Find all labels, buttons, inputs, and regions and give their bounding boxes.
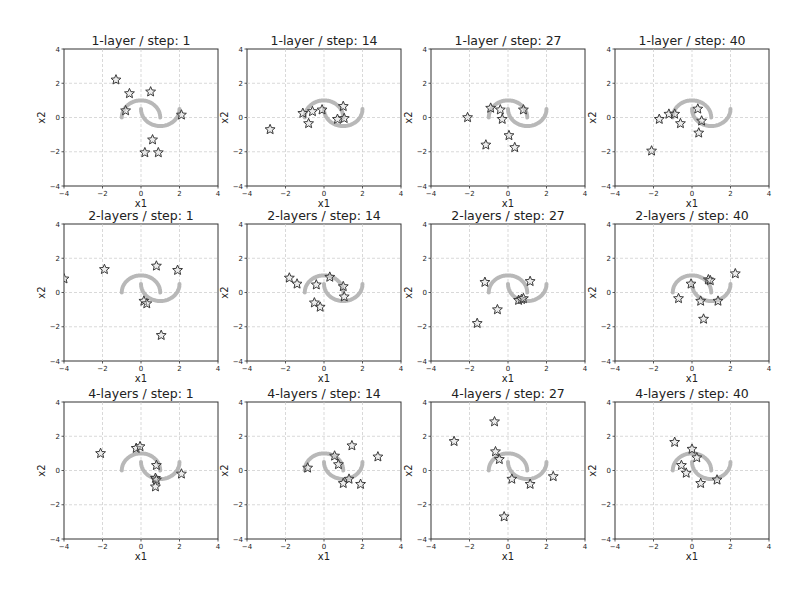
y-axis-label: x2 — [403, 464, 414, 476]
subplot-title: 4-layers / step: 27 — [451, 386, 565, 401]
x-tick-label: 4 — [399, 543, 404, 551]
y-axis-label: x2 — [36, 111, 47, 123]
subplot-grid-figure: 1-layer / step: 1−4−2024−4−2024x1x21-lay… — [0, 0, 807, 592]
y-tick-label: −2 — [50, 323, 60, 331]
subplot-5: 2-layers / step: 1−4−2024−4−2024x1x2 — [36, 208, 221, 384]
y-tick-label: −2 — [601, 148, 611, 156]
x-tick-label: 0 — [139, 543, 143, 551]
y-tick-label: −2 — [417, 148, 427, 156]
x-tick-label: −2 — [97, 365, 107, 373]
x-tick-label: 0 — [506, 190, 510, 198]
x-tick-label: −4 — [426, 543, 437, 551]
x-tick-label: 4 — [399, 190, 404, 198]
subplot-title: 2-layers / step: 40 — [635, 208, 749, 223]
x-axis-label: x1 — [686, 373, 698, 384]
y-tick-label: −4 — [233, 358, 244, 366]
y-axis-label: x2 — [403, 286, 414, 298]
x-tick-label: −2 — [280, 190, 290, 198]
y-tick-label: −2 — [417, 323, 427, 331]
subplot-12: 4-layers / step: 40−4−2024−4−2024x1x2 — [587, 386, 772, 562]
y-axis-label: x2 — [219, 111, 230, 123]
y-tick-label: −4 — [417, 358, 428, 366]
y-tick-label: 0 — [607, 289, 611, 297]
x-tick-label: 4 — [767, 543, 772, 551]
y-tick-label: 4 — [423, 221, 428, 229]
y-tick-label: 4 — [607, 399, 612, 407]
y-tick-label: 4 — [607, 46, 612, 54]
x-tick-label: 4 — [216, 190, 221, 198]
subplot-8: 2-layers / step: 40−4−2024−4−2024x1x2 — [587, 208, 772, 384]
y-tick-label: −4 — [417, 536, 428, 544]
y-tick-label: 2 — [607, 80, 611, 88]
subplot-title: 1-layer / step: 27 — [454, 33, 561, 48]
y-tick-label: 2 — [56, 80, 60, 88]
y-tick-label: −2 — [50, 148, 60, 156]
subplot-10: 4-layers / step: 14−4−2024−4−2024x1x2 — [219, 386, 404, 562]
y-tick-label: 2 — [423, 433, 427, 441]
x-axis-label: x1 — [502, 373, 514, 384]
subplot-3: 1-layer / step: 27−4−2024−4−2024x1x2 — [403, 33, 588, 209]
x-tick-label: 2 — [177, 543, 181, 551]
y-tick-label: −2 — [233, 148, 243, 156]
subplot-1: 1-layer / step: 1−4−2024−4−2024x1x2 — [36, 33, 221, 209]
x-axis-label: x1 — [686, 551, 698, 562]
y-tick-label: −2 — [50, 501, 60, 509]
y-tick-label: 0 — [423, 289, 427, 297]
x-axis-label: x1 — [502, 551, 514, 562]
x-axis-label: x1 — [135, 551, 147, 562]
x-tick-label: −4 — [59, 365, 70, 373]
y-tick-label: 2 — [423, 255, 427, 263]
x-tick-label: 4 — [399, 365, 404, 373]
x-tick-label: 2 — [360, 543, 364, 551]
x-tick-label: 4 — [216, 365, 221, 373]
y-tick-label: −2 — [601, 323, 611, 331]
x-tick-label: −2 — [97, 543, 107, 551]
y-axis-label: x2 — [403, 111, 414, 123]
y-tick-label: 4 — [607, 221, 612, 229]
x-tick-label: −4 — [426, 190, 437, 198]
x-axis-label: x1 — [318, 373, 330, 384]
y-tick-label: 0 — [607, 114, 611, 122]
x-tick-label: 2 — [544, 365, 548, 373]
x-tick-label: 0 — [690, 190, 694, 198]
x-tick-label: 4 — [583, 190, 588, 198]
subplot-title: 2-layers / step: 1 — [88, 208, 194, 223]
y-tick-label: −4 — [601, 536, 612, 544]
x-tick-label: 2 — [728, 190, 732, 198]
x-tick-label: 0 — [690, 543, 694, 551]
y-tick-label: −4 — [417, 183, 428, 191]
y-tick-label: 0 — [607, 467, 611, 475]
x-tick-label: 0 — [139, 190, 143, 198]
x-tick-label: 0 — [139, 365, 143, 373]
subplot-2: 1-layer / step: 14−4−2024−4−2024x1x2 — [219, 33, 404, 209]
x-tick-label: 2 — [177, 365, 181, 373]
y-tick-label: 2 — [607, 255, 611, 263]
y-tick-label: −4 — [50, 358, 61, 366]
y-tick-label: −4 — [233, 183, 244, 191]
x-tick-label: 2 — [544, 543, 548, 551]
x-tick-label: −4 — [426, 365, 437, 373]
x-tick-label: −2 — [464, 190, 474, 198]
y-tick-label: 4 — [239, 46, 244, 54]
y-tick-label: 0 — [423, 467, 427, 475]
x-tick-label: −2 — [97, 190, 107, 198]
subplot-title: 1-layer / step: 14 — [270, 33, 377, 48]
x-tick-label: 2 — [544, 190, 548, 198]
x-tick-label: 2 — [360, 190, 364, 198]
x-tick-label: 2 — [728, 365, 732, 373]
y-tick-label: −4 — [233, 536, 244, 544]
subplot-7: 2-layers / step: 27−4−2024−4−2024x1x2 — [403, 208, 588, 384]
x-tick-label: 0 — [506, 543, 510, 551]
y-tick-label: 2 — [56, 433, 60, 441]
x-tick-label: 4 — [216, 543, 221, 551]
y-tick-label: −4 — [601, 358, 612, 366]
y-tick-label: 2 — [423, 80, 427, 88]
x-tick-label: −4 — [610, 365, 621, 373]
y-tick-label: 0 — [239, 289, 243, 297]
y-tick-label: 2 — [239, 80, 243, 88]
y-tick-label: −4 — [50, 183, 61, 191]
y-tick-label: 4 — [56, 221, 61, 229]
x-axis-label: x1 — [318, 551, 330, 562]
y-tick-label: 2 — [56, 255, 60, 263]
y-tick-label: 0 — [423, 114, 427, 122]
